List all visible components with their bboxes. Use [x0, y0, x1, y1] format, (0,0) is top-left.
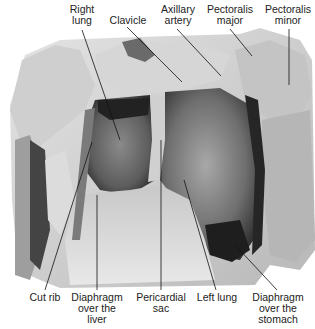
dissection-photo: [0, 0, 315, 329]
label-pectoralis-minor: Pectoralis minor: [262, 4, 314, 26]
anatomy-figure: Right lung Clavicle Axillary artery Pect…: [0, 0, 315, 329]
label-clavicle: Clavicle: [104, 15, 152, 26]
label-diaphragm-liver: Diaphragm over the liver: [70, 292, 124, 325]
label-diaphragm-stomach: Diaphragm over the stomach: [250, 292, 306, 325]
label-pectoralis-major: Pectoralis major: [204, 4, 256, 26]
label-left-lung: Left lung: [194, 292, 240, 303]
label-axillary-artery: Axillary artery: [155, 4, 201, 26]
label-cut-rib: Cut rib: [22, 292, 68, 303]
label-right-lung: Right lung: [64, 4, 100, 26]
label-pericardial-sac: Pericardial sac: [132, 292, 190, 314]
